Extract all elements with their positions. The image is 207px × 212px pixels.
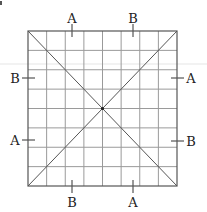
edge-label-left: B <box>10 72 20 85</box>
edge-label-left: A <box>10 134 19 147</box>
square-grid-diagram <box>0 0 207 212</box>
edge-label-bottom: B <box>67 196 77 209</box>
edge-label-right: B <box>186 135 196 148</box>
center-point <box>101 107 104 110</box>
edge-label-bottom: A <box>128 196 137 209</box>
edge-label-right: A <box>186 72 195 85</box>
edge-label-top: A <box>67 12 76 25</box>
edge-label-top: B <box>128 12 138 25</box>
